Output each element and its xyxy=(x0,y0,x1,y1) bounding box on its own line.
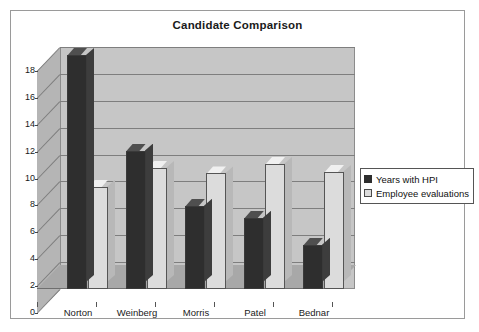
gridline xyxy=(60,74,355,75)
x-axis-tick-mark xyxy=(155,302,156,307)
x-axis-tick-mark xyxy=(37,302,38,307)
y-axis-tick-label: 6 xyxy=(13,227,35,236)
bar-morris-series1[interactable] xyxy=(185,206,205,289)
y-axis-tick-mark xyxy=(35,259,38,260)
bar-side-face xyxy=(322,238,330,282)
bar-weinberg-series1[interactable] xyxy=(126,151,146,289)
y-axis-tick-label: 12 xyxy=(13,147,35,156)
x-axis-tick-mark xyxy=(273,302,274,307)
y-axis-tick-mark xyxy=(35,232,38,233)
x-axis-tick-mark xyxy=(332,302,333,307)
chart-container: Candidate Comparison 024681012141618 Nor… xyxy=(10,10,465,319)
light-square-swatch xyxy=(364,189,372,197)
chart-legend: Years with HPIEmployee evaluations xyxy=(360,168,474,204)
y-axis-tick-label: 16 xyxy=(13,93,35,102)
bar-bednar-series1[interactable] xyxy=(303,245,323,289)
legend-item-label: Employee evaluations xyxy=(376,188,469,199)
x-axis: NortonWeinbergMorrisPatelBednar xyxy=(37,307,356,325)
gridline xyxy=(60,155,355,156)
gridline xyxy=(60,47,355,48)
gridline xyxy=(60,128,355,129)
x-axis-tick-mark xyxy=(214,302,215,307)
plot-area: 024681012141618 NortonWeinbergMorrisPate… xyxy=(11,11,466,320)
y-axis-tick-mark xyxy=(35,152,38,153)
y-axis-tick-mark xyxy=(35,205,38,206)
bar-norton-series1[interactable] xyxy=(67,55,87,289)
legend-item-2[interactable]: Employee evaluations xyxy=(364,186,469,200)
legend-item-1[interactable]: Years with HPI xyxy=(364,172,469,186)
bar-side-face xyxy=(86,48,94,282)
bar-front-face xyxy=(67,55,87,289)
y-axis-tick-label: 8 xyxy=(13,200,35,209)
bar-side-face xyxy=(343,165,351,282)
y-axis-tick-label: 0 xyxy=(13,308,35,317)
y-axis-tick-mark xyxy=(35,98,38,99)
bar-side-face xyxy=(225,166,233,282)
bar-side-face xyxy=(145,144,153,282)
y-axis-tick-mark xyxy=(35,125,38,126)
y-axis: 024681012141618 xyxy=(11,11,35,320)
y-axis-tick-label: 10 xyxy=(13,174,35,183)
y-axis-tick-label: 2 xyxy=(13,281,35,290)
y-axis-tick-mark xyxy=(35,179,38,180)
bar-side-face xyxy=(263,211,271,282)
y-axis-tick-label: 14 xyxy=(13,120,35,129)
bar-side-face xyxy=(204,199,212,282)
y-axis-tick-mark xyxy=(35,71,38,72)
bar-side-face xyxy=(107,180,115,282)
bar-patel-series1[interactable] xyxy=(244,218,264,289)
x-axis-tick-label-bednar: Bednar xyxy=(274,307,354,318)
bar-front-face xyxy=(185,206,205,289)
legend-item-label: Years with HPI xyxy=(376,174,438,185)
bar-front-face xyxy=(126,151,146,289)
bar-side-face xyxy=(166,161,174,282)
x-axis-tick-mark xyxy=(96,302,97,307)
gridline xyxy=(60,101,355,102)
y-axis-tick-label: 18 xyxy=(13,66,35,75)
bar-front-face xyxy=(303,245,323,289)
y-axis-tick-mark xyxy=(35,286,38,287)
bar-side-face xyxy=(284,157,292,282)
bar-front-face xyxy=(244,218,264,289)
dark-square-swatch xyxy=(364,175,372,183)
y-axis-tick-label: 4 xyxy=(13,254,35,263)
